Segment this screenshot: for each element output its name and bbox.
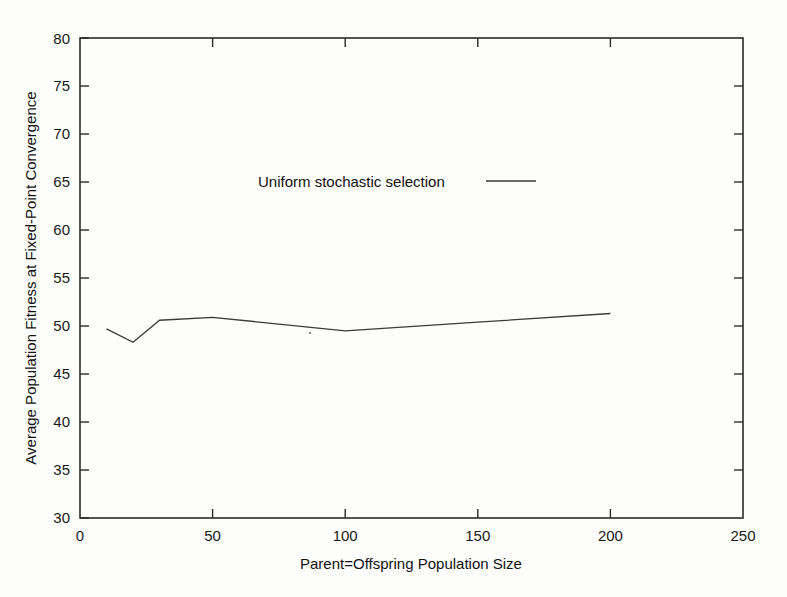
x-tick-label-200: 200 [598, 527, 623, 544]
x-tick-label-0: 0 [76, 527, 84, 544]
y-tick-label-55: 55 [53, 269, 70, 286]
scan-artifact-speck [309, 332, 311, 334]
y-axis-title: Average Population Fitness at Fixed-Poin… [22, 91, 39, 464]
y-tick-label-35: 35 [53, 461, 70, 478]
y-tick-label-45: 45 [53, 365, 70, 382]
y-tick-label-80: 80 [53, 30, 70, 47]
line-chart-figure: 30 35 40 45 50 55 60 65 70 75 80 0 50 10… [0, 0, 787, 597]
y-tick-label-65: 65 [53, 173, 70, 190]
y-tick-label-75: 75 [53, 77, 70, 94]
x-axis-title: Parent=Offspring Population Size [300, 555, 522, 572]
figure-background [0, 0, 787, 597]
x-tick-label-250: 250 [730, 527, 755, 544]
y-tick-label-40: 40 [53, 413, 70, 430]
y-tick-label-30: 30 [53, 509, 70, 526]
y-tick-label-50: 50 [53, 317, 70, 334]
x-tick-label-100: 100 [333, 527, 358, 544]
y-tick-label-70: 70 [53, 125, 70, 142]
x-tick-label-50: 50 [204, 527, 221, 544]
legend-label-uniform-stochastic-selection: Uniform stochastic selection [258, 173, 445, 190]
x-tick-label-150: 150 [465, 527, 490, 544]
y-tick-label-60: 60 [53, 221, 70, 238]
